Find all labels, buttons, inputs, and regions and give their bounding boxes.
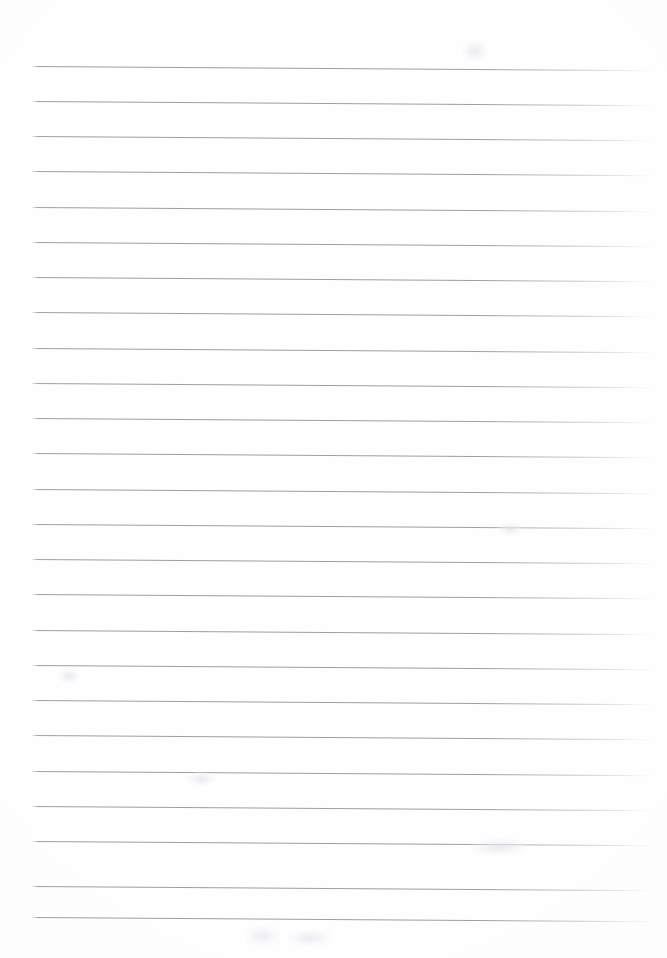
- ruled-lines-layer: [0, 0, 667, 958]
- ruled-line: [32, 242, 656, 247]
- ruled-line: [32, 136, 656, 141]
- ruled-line: [32, 630, 656, 635]
- ruled-line: [32, 101, 656, 106]
- ruled-line: [32, 348, 656, 353]
- ruled-line: [32, 771, 656, 776]
- ruled-line: [32, 700, 656, 705]
- ruled-line: [32, 665, 656, 670]
- ruled-line: [32, 489, 656, 494]
- ruled-line: [32, 559, 656, 564]
- ruled-line: [32, 453, 656, 458]
- ruled-line: [32, 66, 656, 71]
- notebook-page: [0, 0, 667, 958]
- ruled-line: [32, 418, 656, 423]
- ruled-line: [32, 312, 656, 317]
- ruled-line: [32, 886, 656, 891]
- ruled-line: [32, 841, 656, 846]
- ruled-line: [32, 735, 656, 740]
- ruled-line: [32, 594, 656, 599]
- ruled-line: [32, 524, 656, 529]
- ruled-line: [32, 917, 656, 922]
- ruled-line: [32, 277, 656, 282]
- ruled-line: [32, 207, 656, 212]
- ruled-line: [32, 171, 656, 176]
- ruled-line: [32, 383, 656, 388]
- ruled-line: [32, 806, 656, 811]
